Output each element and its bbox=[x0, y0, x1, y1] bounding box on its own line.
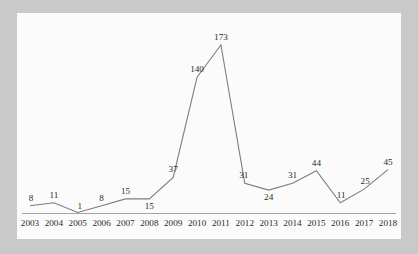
data-point-label: 8 bbox=[29, 193, 34, 203]
x-axis-tick-label: 2006 bbox=[92, 218, 111, 228]
data-point-label: 11 bbox=[337, 190, 346, 200]
data-point-label: 15 bbox=[145, 201, 155, 211]
x-axis-tick-label: 2003 bbox=[21, 218, 40, 228]
x-axis-tick-label: 2011 bbox=[212, 218, 230, 228]
series-group bbox=[30, 45, 388, 213]
data-point-label: 44 bbox=[312, 158, 322, 168]
data-point-label: 140 bbox=[190, 64, 204, 74]
data-point-label: 1 bbox=[77, 201, 82, 211]
x-axis-tick-label: 2017 bbox=[355, 218, 374, 228]
x-axis-tick-label: 2013 bbox=[259, 218, 278, 228]
data-point-label: 15 bbox=[121, 186, 131, 196]
chart-plot-area: 8111815153714017331243144112545 20032004… bbox=[17, 13, 401, 239]
x-axis-tick-label: 2016 bbox=[331, 218, 350, 228]
x-axis-tick-label: 2014 bbox=[283, 218, 302, 228]
x-axis-tick-label: 2012 bbox=[236, 218, 255, 228]
x-axis-tick-label: 2015 bbox=[307, 218, 326, 228]
data-point-label: 11 bbox=[49, 190, 58, 200]
x-axis-tick-label-group: 2003200420052006200720082009201020112012… bbox=[21, 218, 398, 228]
x-axis-tick-label: 2009 bbox=[164, 218, 183, 228]
x-axis-tick-label: 2018 bbox=[379, 218, 398, 228]
data-point-label: 24 bbox=[264, 192, 274, 202]
data-point-label: 45 bbox=[383, 157, 393, 167]
x-axis-tick-label: 2008 bbox=[140, 218, 159, 228]
data-point-label: 31 bbox=[239, 170, 249, 180]
data-point-label: 37 bbox=[169, 164, 179, 174]
data-point-label: 25 bbox=[361, 176, 371, 186]
data-point-label: 8 bbox=[99, 193, 104, 203]
x-axis-tick-label: 2010 bbox=[188, 218, 207, 228]
line-chart-figure: 8111815153714017331243144112545 20032004… bbox=[17, 13, 401, 239]
x-axis-tick-label: 2007 bbox=[116, 218, 135, 228]
data-series-line bbox=[30, 45, 388, 213]
data-point-label: 31 bbox=[288, 170, 298, 180]
x-axis-tick-label: 2004 bbox=[45, 218, 64, 228]
x-axis-tick-label: 2005 bbox=[69, 218, 88, 228]
data-point-label: 173 bbox=[214, 32, 228, 42]
